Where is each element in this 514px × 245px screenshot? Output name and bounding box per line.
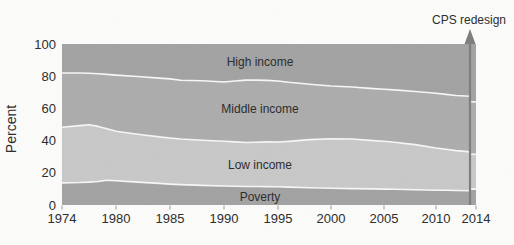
income-distribution-stacked-area-chart: PovertyLow incomeMiddle incomeHigh incom…: [0, 0, 514, 245]
x-tick-label-2010: 2010: [422, 211, 451, 226]
x-tick-label-1990: 1990: [210, 211, 239, 226]
cps-redesign-label: CPS redesign: [432, 13, 506, 27]
y-tick-label-20: 20: [42, 165, 56, 180]
y-tick-label-60: 60: [42, 101, 56, 116]
x-tick-label-1974: 1974: [48, 211, 77, 226]
band-label-middle-income: Middle income: [221, 102, 299, 116]
x-tick-label-1980: 1980: [102, 211, 131, 226]
y-tick-label-80: 80: [42, 69, 56, 84]
x-tick-label-2000: 2000: [317, 211, 346, 226]
cps-redesign-arrowhead-icon: [465, 29, 476, 44]
y-tick-label-100: 100: [34, 37, 56, 52]
x-tick-label-1995: 1995: [264, 211, 293, 226]
y-tick-label-40: 40: [42, 133, 56, 148]
band-label-poverty: Poverty: [240, 190, 281, 204]
chart-canvas: PovertyLow incomeMiddle incomeHigh incom…: [0, 0, 514, 245]
band-label-low-income: Low income: [228, 158, 292, 172]
band-label-high-income: High income: [227, 55, 294, 69]
y-axis-label: Percent: [3, 105, 19, 153]
x-tick-label-2014: 2014: [462, 211, 491, 226]
x-tick-label-2005: 2005: [370, 211, 399, 226]
x-tick-label-1985: 1985: [156, 211, 185, 226]
